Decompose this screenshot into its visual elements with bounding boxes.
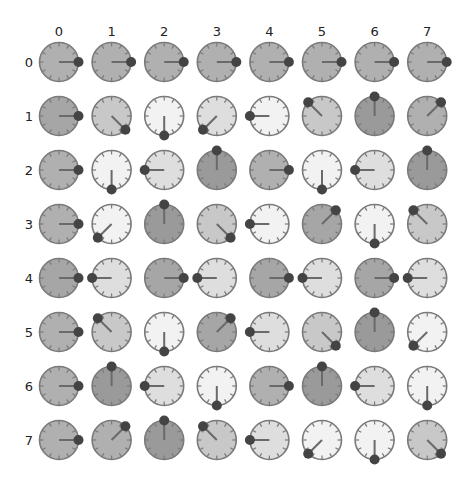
dial-0-5 [303,43,347,82]
dial-knob-icon [212,146,222,156]
dial-knob-icon [284,381,294,391]
dial-knob-icon [370,308,380,318]
dial-knob-icon [74,219,84,229]
dial-6-0 [40,367,84,406]
dial-knob-icon [74,165,84,175]
dial-1-7 [408,97,447,136]
dial-knob-icon [198,125,208,135]
dial-knob-icon [284,273,294,283]
dial-6-1 [92,362,131,406]
dial-2-4 [250,151,294,190]
dial-4-2 [145,259,189,298]
dial-knob-icon [408,341,418,351]
dial-5-3 [197,313,236,352]
dial-3-6 [355,205,394,249]
dial-knob-icon [226,233,236,243]
dial-2-0 [40,151,84,190]
dial-7-5 [303,421,342,460]
dial-knob-icon [245,435,255,445]
dial-knob-icon [159,200,169,210]
dial-3-2 [145,200,184,244]
dial-2-5 [303,151,342,195]
dial-2-7 [408,146,447,190]
dial-knob-icon [179,57,189,67]
dial-knob-icon [74,327,84,337]
dial-7-2 [145,416,184,460]
dial-knob-icon [317,362,327,372]
dial-knob-icon [245,219,255,229]
dial-knob-icon [408,205,418,215]
dial-7-4 [245,421,289,460]
dial-2-2 [140,151,184,190]
dial-2-6 [350,151,394,190]
dial-knob-icon [298,273,308,283]
dial-1-4 [245,97,289,136]
dial-knob-icon [284,57,294,67]
dial-7-0 [40,421,84,460]
dial-knob-icon [74,111,84,121]
dial-knob-icon [74,57,84,67]
dial-3-0 [40,205,84,244]
dial-knob-icon [389,57,399,67]
dial-knob-icon [422,401,432,411]
dial-knob-icon [120,125,130,135]
dial-4-1 [87,259,131,298]
dial-knob-icon [245,111,255,121]
dial-knob-icon [317,185,327,195]
dial-knob-icon [331,205,341,215]
dial-4-5 [298,259,342,298]
dial-7-1 [92,421,131,460]
dial-knob-icon [226,313,236,323]
dial-7-3 [197,421,236,460]
dial-1-2 [145,97,184,141]
dial-1-0 [40,97,84,136]
dial-6-2 [140,367,184,406]
dial-knob-icon [350,165,360,175]
dial-knob-icon [74,381,84,391]
dial-knob-icon [74,435,84,445]
dial-knob-icon [140,165,150,175]
dial-3-5 [303,205,342,244]
dial-knob-icon [93,313,103,323]
dial-1-5 [303,97,342,136]
dial-0-3 [197,43,241,82]
dial-knob-icon [179,273,189,283]
dial-3-7 [408,205,447,244]
dial-knob-icon [192,273,202,283]
dial-knob-icon [198,421,208,431]
dial-2-3 [197,146,236,190]
dial-knob-icon [422,146,432,156]
dial-5-6 [355,308,394,352]
dial-5-2 [145,313,184,357]
dial-knob-icon [93,233,103,243]
dial-knob-icon [159,347,169,357]
dial-knob-icon [370,239,380,249]
dial-knob-icon [436,449,446,459]
dial-2-1 [92,151,131,195]
dial-7-7 [408,421,447,460]
dial-knob-icon [231,57,241,67]
dial-0-7 [408,43,452,82]
dial-knob-icon [350,381,360,391]
dial-4-4 [250,259,294,298]
dial-3-4 [245,205,289,244]
dial-7-6 [355,421,394,465]
dial-4-0 [40,259,84,298]
dial-1-3 [197,97,236,136]
dial-4-3 [192,259,236,298]
dial-0-4 [250,43,294,82]
dial-1-1 [92,97,131,136]
dial-knob-icon [245,327,255,337]
dial-6-6 [350,367,394,406]
dial-knob-icon [140,381,150,391]
dial-knob-icon [337,57,347,67]
dial-5-1 [92,313,131,352]
dial-5-7 [408,313,447,352]
dial-3-3 [197,205,236,244]
dial-knob-icon [389,273,399,283]
dial-6-5 [303,362,342,406]
dial-1-6 [355,92,394,136]
dial-4-7 [403,259,447,298]
dial-6-3 [197,367,236,411]
dial-knob-icon [159,416,169,426]
